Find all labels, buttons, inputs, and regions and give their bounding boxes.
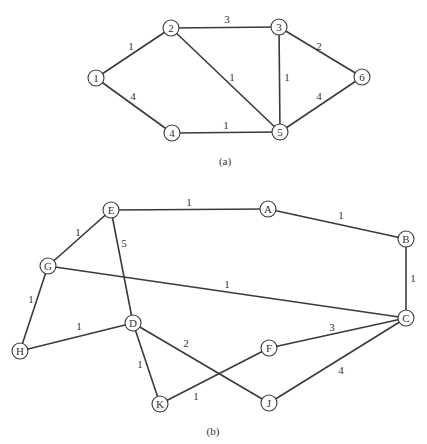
node-label: C [402, 312, 409, 324]
edge-weight-2-3: 3 [224, 13, 230, 25]
edge-3-6 [279, 27, 362, 77]
edge-weight-D-K: 1 [137, 358, 143, 370]
edge-weight-4-5: 1 [223, 119, 229, 131]
graph-a-caption: (a) [219, 155, 232, 168]
graph-b-caption: (b) [207, 425, 220, 438]
graph-b-weight-labels: 1111511121134 [28, 196, 416, 402]
edge-weight-G-H: 1 [28, 293, 34, 305]
node-6: 6 [354, 69, 370, 85]
node-label: 2 [168, 22, 174, 34]
node-label: 4 [169, 127, 175, 139]
node-H: H [12, 343, 28, 359]
graph-a-weight-labels: 14311214 [128, 13, 322, 131]
edge-F-C [269, 318, 406, 348]
edge-weight-1-4: 4 [130, 90, 136, 102]
node-label: F [266, 342, 272, 354]
node-5: 5 [272, 124, 288, 140]
node-label: G [44, 260, 52, 272]
node-label: 3 [276, 21, 282, 33]
edge-2-5 [171, 28, 280, 132]
edge-E-A [111, 209, 268, 210]
edge-weight-H-D: 1 [76, 320, 82, 332]
node-label: D [129, 317, 137, 329]
node-E: E [103, 202, 119, 218]
edge-1-4 [96, 78, 172, 133]
edge-weight-F-C: 3 [329, 321, 335, 333]
edge-weight-B-C: 1 [410, 272, 416, 284]
node-label: A [264, 203, 272, 215]
edge-weight-3-6: 2 [316, 40, 322, 52]
edge-G-C [48, 266, 406, 318]
node-label: J [267, 397, 272, 409]
node-F: F [261, 340, 277, 356]
node-4: 4 [164, 125, 180, 141]
graph-b-edges [20, 209, 406, 404]
node-B: B [398, 231, 414, 247]
edge-weight-3-5: 1 [284, 71, 290, 83]
node-label: B [402, 233, 409, 245]
node-D: D [125, 315, 141, 331]
edge-weight-A-B: 1 [338, 209, 344, 221]
edge-5-6 [280, 77, 362, 132]
edge-J-C [269, 318, 406, 403]
graph-b: 1111511121134 EABGCDHFKJ (b) [12, 196, 416, 438]
edge-weight-D-J: 2 [183, 337, 189, 349]
edge-E-D [111, 210, 133, 323]
edge-K-F [160, 348, 269, 404]
edge-2-3 [171, 27, 279, 28]
edge-weight-K-F: 1 [193, 390, 199, 402]
node-label: 6 [359, 71, 365, 83]
node-label: 1 [93, 72, 99, 84]
edge-A-B [268, 209, 406, 239]
node-A: A [260, 201, 276, 217]
node-label: K [156, 398, 164, 410]
node-label: H [16, 345, 24, 357]
edge-weight-E-D: 5 [121, 237, 127, 249]
edge-weight-1-2: 1 [128, 40, 134, 52]
edge-weight-5-6: 4 [316, 90, 322, 102]
graph-a: 14311214 123456 (a) [88, 13, 370, 168]
edge-weight-G-C: 1 [224, 278, 230, 290]
node-label: E [108, 204, 115, 216]
node-2: 2 [163, 20, 179, 36]
edge-weight-E-A: 1 [186, 196, 192, 208]
graph-b-nodes: EABGCDHFKJ [12, 201, 414, 412]
edge-weight-2-5: 1 [229, 71, 235, 83]
node-1: 1 [88, 70, 104, 86]
node-J: J [261, 395, 277, 411]
node-G: G [40, 258, 56, 274]
node-C: C [398, 310, 414, 326]
edge-3-5 [279, 27, 280, 132]
edge-D-J [133, 323, 269, 403]
edge-weight-J-C: 4 [338, 364, 344, 376]
node-label: 5 [277, 126, 283, 138]
node-3: 3 [271, 19, 287, 35]
edge-weight-E-G: 1 [75, 226, 81, 238]
node-K: K [152, 396, 168, 412]
graph-figure: 14311214 123456 (a) 1111511121134 EABGCD… [0, 0, 427, 444]
edge-G-H [20, 266, 48, 351]
edge-E-G [48, 210, 111, 266]
edge-4-5 [172, 132, 280, 133]
edge-1-2 [96, 28, 171, 78]
